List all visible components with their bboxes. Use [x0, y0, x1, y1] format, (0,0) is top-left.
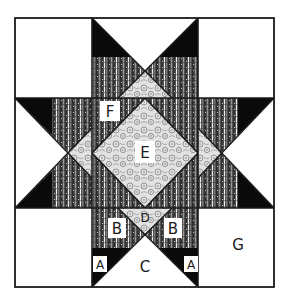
- svg-text:A: A: [187, 258, 196, 272]
- label-f: F: [100, 101, 120, 121]
- svg-text:D: D: [140, 211, 149, 225]
- svg-text:B: B: [168, 220, 178, 238]
- left-star-point: [15, 98, 92, 208]
- quilt-block-diagram: F E D B B A A C G: [0, 0, 290, 308]
- quilt-block-svg: F E D B B A A C G: [0, 0, 290, 308]
- svg-text:E: E: [140, 144, 149, 162]
- svg-text:A: A: [96, 258, 105, 272]
- label-a-left: A: [93, 256, 107, 272]
- label-g: G: [232, 236, 244, 254]
- label-c: C: [140, 258, 150, 276]
- svg-text:G: G: [232, 236, 244, 254]
- label-d: D: [140, 211, 149, 225]
- svg-text:F: F: [106, 103, 115, 121]
- label-b-left: B: [108, 218, 126, 238]
- top-star-point: [92, 18, 198, 98]
- label-e: E: [135, 141, 155, 163]
- label-b-right: B: [164, 218, 182, 238]
- right-star-point: [198, 98, 274, 208]
- svg-text:C: C: [140, 258, 150, 276]
- label-a-right: A: [184, 256, 198, 272]
- svg-text:B: B: [112, 220, 122, 238]
